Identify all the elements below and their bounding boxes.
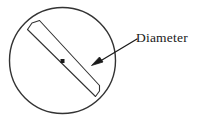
diameter-band [28,21,100,97]
diagram-canvas: Diameter [0,0,197,125]
pointer-arrow [92,39,138,66]
arrow-head-icon [92,57,104,66]
band-cap-bottom-right [96,86,100,97]
circle-diameter-diagram: Diameter [0,0,197,125]
center-dot [61,59,65,63]
arrow-shaft [97,39,137,63]
diameter-label: Diameter [136,30,188,45]
band-cap-top-left [28,21,40,30]
band-edge-upper [40,21,100,86]
